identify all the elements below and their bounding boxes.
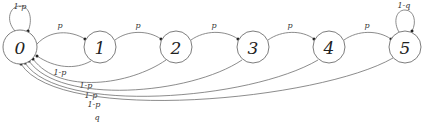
node-label-5: 5 xyxy=(400,38,411,58)
state-diagram: 1-p p p p p p 1-q 1-p 1 xyxy=(0,0,422,124)
edge-label-0-1: p xyxy=(57,21,62,30)
node-label-3: 3 xyxy=(248,38,259,58)
node-0: 0 xyxy=(3,30,37,64)
node-4: 4 xyxy=(313,31,345,63)
edge-4-to-5: p xyxy=(344,21,393,41)
edge-1-to-2: p xyxy=(115,21,163,41)
node-2: 2 xyxy=(160,31,192,63)
node-3: 3 xyxy=(237,31,269,63)
edge-0-to-1: p xyxy=(37,21,87,44)
edge-label-1-0: 1-p xyxy=(54,68,67,77)
edge-label-5-0: q xyxy=(94,113,99,122)
edge-label-0-0: 1-p xyxy=(14,2,27,11)
edge-1-to-0: 1-p xyxy=(36,55,92,78)
edge-label-5-5: 1-q xyxy=(398,1,411,10)
edge-0-to-0: 1-p xyxy=(10,2,31,33)
node-label-0: 0 xyxy=(15,38,26,58)
edge-label-1-2: p xyxy=(135,21,140,30)
edge-5-to-5: 1-q xyxy=(396,1,415,33)
edge-label-2-3: p xyxy=(211,21,216,30)
edge-2-to-3: p xyxy=(191,21,240,41)
edge-label-4-0: 1-p xyxy=(88,100,101,109)
node-5: 5 xyxy=(389,31,421,63)
edge-label-4-5: p xyxy=(364,21,369,30)
arrowhead-icon xyxy=(36,55,39,58)
node-label-1: 1 xyxy=(95,38,106,58)
edge-label-3-4: p xyxy=(287,21,292,30)
node-label-4: 4 xyxy=(323,38,335,58)
node-1: 1 xyxy=(84,31,116,63)
edge-3-to-4: p xyxy=(268,21,316,41)
node-label-2: 2 xyxy=(170,38,182,58)
